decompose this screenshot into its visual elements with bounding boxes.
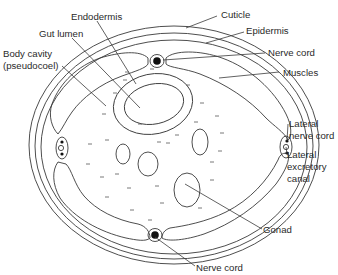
dorsal-nerve-cord [153, 57, 161, 65]
label-nerve-cord-top: Nerve cord [268, 47, 315, 58]
left-lateral-excretory-canal [58, 145, 63, 150]
label-body-cavity: Body cavity [3, 48, 52, 59]
label-lateral-nerve-cord-1: Lateral [289, 118, 318, 129]
gonad-large [174, 173, 200, 207]
leader-body-cavity [62, 66, 106, 106]
leader-gonad [185, 184, 262, 229]
leader-lateral-nerve-cord [287, 124, 288, 141]
leader-cuticle [186, 16, 217, 28]
muscle-bottom-left [54, 162, 150, 240]
epidermis-inner [41, 40, 307, 254]
leader-nerve-cord-bottom [155, 237, 195, 266]
ventral-nerve-cord [151, 231, 159, 239]
leader-muscles [219, 72, 279, 78]
label-nerve-cord-bottom: Nerve cord [196, 262, 243, 273]
left-lateral-nerve-dot-upper [60, 140, 63, 143]
label-lateral-nerve-cord-2: nerve cord [289, 130, 334, 141]
left-lateral-cord-sheath [56, 137, 68, 159]
label-lateral-excretory-3: canal [287, 173, 310, 184]
label-lateral-excretory-1: Lateral [287, 149, 316, 160]
label-muscles: Muscles [283, 67, 318, 78]
pseudocoel-fluid-marks [86, 69, 224, 220]
gonad-right [192, 129, 208, 155]
label-lateral-excretory-2: excretory [287, 161, 327, 172]
gonad-small-2 [138, 152, 158, 176]
label-gut-lumen: Gut lumen [39, 28, 83, 39]
label-epidermis: Epidermis [246, 25, 289, 36]
muscle-top-right [166, 52, 291, 140]
gonad-small-1 [116, 144, 130, 164]
label-gonad: Gonad [263, 224, 292, 235]
nematode-cross-section-diagram: Endodermis Gut lumen Body cavity (pseudo… [0, 0, 338, 275]
label-endodermis: Endodermis [71, 11, 122, 22]
gut-endodermis [108, 66, 199, 141]
label-cuticle: Cuticle [221, 9, 250, 20]
left-lateral-nerve-dot-lower [60, 152, 63, 155]
muscle-top-left [50, 53, 148, 134]
gut-lumen [120, 78, 187, 130]
label-pseudocoel: (pseudocoel) [3, 60, 58, 71]
